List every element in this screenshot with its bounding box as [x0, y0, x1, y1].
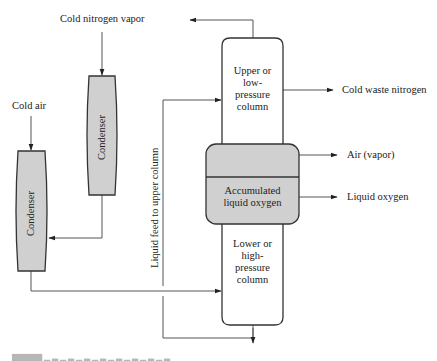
accumulated-oxygen-label-line: liquid oxygen: [206, 197, 299, 209]
liquid-feed-label: Liquid feed to upper column: [149, 148, 161, 268]
cold-nitrogen-vapor-label: Cold nitrogen vapor: [60, 13, 145, 25]
lower-column-label: Lower or high- pressure column: [222, 238, 283, 286]
figure-caption-clipped: ▆▆▆▆▆ ▁ ▂ ▁ ▂ ▁ ▂ ▁ ▂ ▁ ▂ ▁ ▂ ▁ ▂ ▁ ▂: [12, 352, 170, 361]
lower-column-label-line: high-: [222, 250, 283, 262]
diagram-graphics: [0, 0, 437, 361]
air-to-lower-column-line: [31, 271, 221, 291]
lower-column-label-line: Lower or: [222, 238, 283, 250]
accumulated-oxygen-shape: [206, 144, 299, 224]
accumulated-oxygen-label-line: Accumulated: [206, 185, 299, 197]
upper-column-label: Upper or low- pressure column: [222, 65, 283, 113]
upper-column-label-line: low-: [222, 77, 283, 89]
cold-waste-nitrogen-label: Cold waste nitrogen: [342, 84, 427, 96]
upper-column-label-line: pressure: [222, 89, 283, 101]
air-vapor-label: Air (vapor): [347, 149, 395, 161]
upper-column-label-line: Upper or: [222, 65, 283, 77]
condenser-left-label: Condenser: [25, 191, 37, 236]
top-outlet-line: [190, 20, 253, 38]
lower-column-label-line: pressure: [222, 262, 283, 274]
lower-column-label-line: column: [222, 274, 283, 286]
accumulated-oxygen-label: Accumulated liquid oxygen: [206, 185, 299, 209]
liquid-oxygen-label: Liquid oxygen: [347, 191, 409, 203]
condenser-link-line: [49, 195, 102, 238]
condenser-right-label: Condenser: [96, 115, 108, 160]
cold-air-label: Cold air: [12, 100, 46, 112]
upper-column-label-line: column: [222, 101, 283, 113]
diagram-canvas: Cold nitrogen vapor Cold air Condenser C…: [0, 0, 437, 361]
